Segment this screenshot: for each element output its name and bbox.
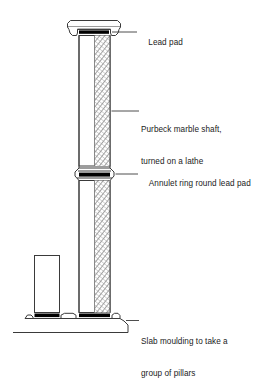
leader-lines xyxy=(112,32,140,321)
label-shaft-line2: turned on a lathe xyxy=(141,157,222,168)
label-annulet-ring: Annulet ring round lead pad xyxy=(140,168,251,200)
adjacent-pillar-outline xyxy=(35,256,60,313)
label-slab-line1: Slab moulding to take a xyxy=(141,337,228,348)
lead-pad-middle xyxy=(79,173,110,177)
shaft-lower xyxy=(79,181,110,313)
label-annulet-text: Annulet ring round lead pad xyxy=(149,179,251,188)
label-slab-line2: group of pillars xyxy=(141,369,228,380)
shaft-upper xyxy=(79,36,110,167)
label-slab-moulding: Slab moulding to take a group of pillars xyxy=(141,316,228,382)
label-lead-pad-text: Lead pad xyxy=(148,38,183,47)
label-lead-pad: Lead pad xyxy=(139,27,183,59)
slab-moulding xyxy=(13,313,128,332)
label-shaft-line1: Purbeck marble shaft, xyxy=(141,125,222,136)
lead-pad-top xyxy=(79,30,109,33)
